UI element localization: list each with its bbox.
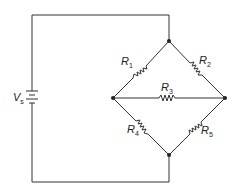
- resistor-r5: [169, 98, 225, 155]
- battery-icon: [26, 88, 38, 104]
- node-right: [223, 96, 227, 100]
- resistor-r3: [113, 95, 225, 101]
- label-r5: R5: [201, 124, 213, 138]
- label-vs: Vs: [13, 91, 24, 105]
- wire-top: [32, 15, 169, 88]
- label-r2: R2: [199, 54, 211, 68]
- label-r1: R1: [121, 55, 133, 69]
- label-r4: R4: [127, 123, 139, 137]
- resistor-r2: [169, 41, 225, 98]
- label-r3: R3: [161, 81, 173, 95]
- wire-bottom: [32, 104, 169, 182]
- resistor-r4: [113, 98, 169, 155]
- node-bottom: [167, 153, 171, 157]
- circuit-diagram: Vs R1 R2 R3 R4 R5: [0, 0, 238, 190]
- node-left: [111, 96, 115, 100]
- node-top: [167, 39, 171, 43]
